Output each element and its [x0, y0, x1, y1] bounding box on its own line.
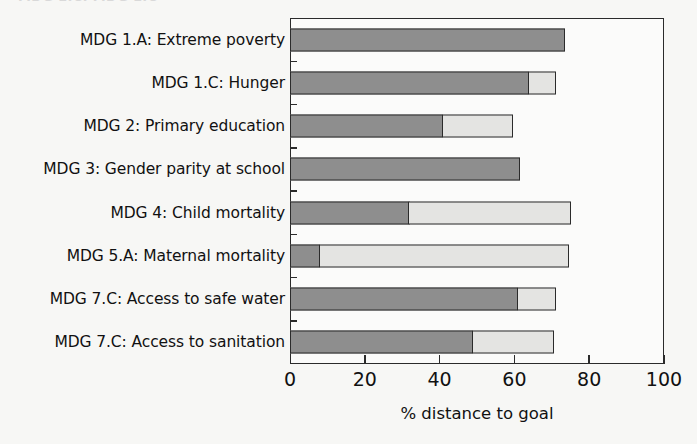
category-label: MDG 3: Gender parity at school	[43, 160, 285, 178]
x-axis-tick	[514, 355, 516, 364]
bar-segment-remaining	[517, 288, 556, 311]
stacked-bar	[290, 115, 513, 138]
category-label: MDG 1.C: Hunger	[151, 74, 285, 92]
bar-row: MDG 4: Child mortality	[0, 191, 697, 234]
category-label: MDG 7.C: Access to safe water	[50, 290, 285, 308]
x-axis-tick-label: 80	[577, 368, 601, 390]
bar-row: MDG 7.C: Access to safe water	[0, 278, 697, 321]
x-axis-tick-label: 40	[428, 368, 452, 390]
bar-segment-achieved	[290, 71, 529, 94]
x-axis-tick	[588, 355, 590, 364]
bar-rows: MDG 1.A: Extreme povertyMDG 1.C: HungerM…	[0, 18, 697, 364]
bar-segment-remaining	[528, 71, 556, 94]
bar-segment-remaining	[472, 331, 554, 354]
bar-segment-achieved	[290, 331, 473, 354]
bar-row: MDG 1.A: Extreme poverty	[0, 18, 697, 61]
x-axis-tick-label: 0	[284, 368, 296, 390]
bar-segment-achieved	[290, 201, 410, 224]
stacked-bar	[290, 28, 565, 51]
bar-row: MDG 5.A: Maternal mortality	[0, 234, 697, 277]
bar-segment-remaining	[442, 115, 513, 138]
category-label: MDG 2: Primary education	[83, 117, 285, 135]
bar-segment-achieved	[290, 244, 320, 267]
bar-segment-achieved	[290, 288, 518, 311]
stacked-bar	[290, 71, 556, 94]
category-label: MDG 7.C: Access to sanitation	[54, 333, 285, 351]
bar-row: MDG 2: Primary education	[0, 105, 697, 148]
category-label: MDG 1.A: Extreme poverty	[80, 31, 285, 49]
bar-segment-achieved	[290, 158, 520, 181]
x-axis-ticks: 020406080100	[0, 364, 697, 374]
stacked-bar	[290, 201, 571, 224]
category-label: MDG 4: Child mortality	[111, 204, 285, 222]
stacked-bar	[290, 288, 556, 311]
category-label: MDG 5.A: Maternal mortality	[67, 247, 285, 265]
bar-row: MDG 3: Gender parity at school	[0, 148, 697, 191]
x-axis-tick-label: 20	[353, 368, 377, 390]
bar-row: MDG 1.C: Hunger	[0, 61, 697, 104]
stacked-bar	[290, 158, 520, 181]
x-axis-tick	[663, 355, 665, 364]
chart-root: MDG 1.C: MDG 1.C MDG 1.A: Extreme povert…	[0, 0, 697, 444]
x-axis-tick	[439, 355, 441, 364]
x-axis-tick	[364, 355, 366, 364]
stacked-bar	[290, 331, 554, 354]
bar-segment-achieved	[290, 115, 443, 138]
x-axis-title: % distance to goal	[290, 404, 664, 423]
bar-row: MDG 7.C: Access to sanitation	[0, 321, 697, 364]
stacked-bar	[290, 244, 569, 267]
clipped-title-sliver: MDG 1.C: MDG 1.C	[18, 0, 157, 4]
x-axis-tick-label: 100	[646, 368, 682, 390]
x-axis-tick-label: 60	[502, 368, 526, 390]
bar-segment-remaining	[319, 244, 570, 267]
bar-segment-remaining	[408, 201, 571, 224]
bar-segment-achieved	[290, 28, 565, 51]
